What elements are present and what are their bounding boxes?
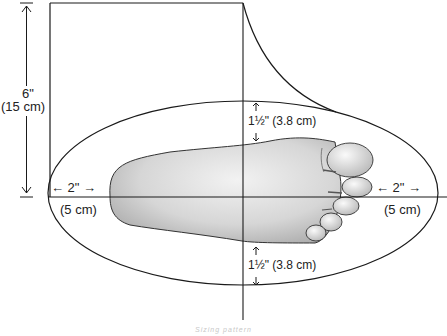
upper-curve <box>243 3 336 112</box>
height-label-metric: (15 cm) <box>1 100 45 114</box>
figure-caption: Sizing pattern <box>0 326 447 333</box>
bottom-margin-label: 1½" (3.8 cm) <box>248 259 316 272</box>
toe-margin-label-metric: (5 cm) <box>384 203 421 217</box>
heel-margin-label-imperial: ← 2" → <box>51 181 96 195</box>
foot-illustration <box>110 138 373 243</box>
pattern-drawing <box>0 0 447 336</box>
heel-margin-label-metric: (5 cm) <box>60 203 97 217</box>
toe-margin-label-imperial: ← 2" → <box>376 181 421 195</box>
top-margin-label: 1½" (3.8 cm) <box>248 115 316 128</box>
